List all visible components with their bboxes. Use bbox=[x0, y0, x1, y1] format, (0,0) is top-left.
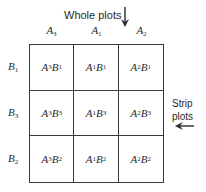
column-header-a3: A3 bbox=[29, 24, 74, 38]
cell-a2b3: A2B3 bbox=[119, 91, 163, 137]
strip-plots-label: Strip plots bbox=[172, 97, 193, 123]
row-header-b1: B1 bbox=[8, 60, 24, 74]
cell-a2b1: A2B1 bbox=[119, 45, 163, 91]
strip-label-line1: Strip bbox=[172, 97, 193, 110]
cell-a3b1: A3B1 bbox=[30, 45, 74, 91]
plot-grid: A3B1 A1B1 A2B1 A3B3 A1B3 A2B3 A3B2 A1B2 … bbox=[29, 44, 164, 183]
cell-a2b2: A2B2 bbox=[119, 136, 163, 182]
row-header-b2: B2 bbox=[8, 152, 24, 166]
cell-a3b3: A3B3 bbox=[30, 91, 74, 137]
row-header-b3: B3 bbox=[8, 106, 24, 120]
cell-a1b3: A1B3 bbox=[74, 91, 118, 137]
left-arrow-icon bbox=[175, 121, 195, 131]
column-header-a1: A1 bbox=[74, 24, 119, 38]
cell-a1b2: A1B2 bbox=[74, 136, 118, 182]
cell-a3b2: A3B2 bbox=[30, 136, 74, 182]
column-header-a2: A2 bbox=[119, 24, 164, 38]
cell-a1b1: A1B1 bbox=[74, 45, 118, 91]
whole-plots-label: Whole plots bbox=[64, 9, 121, 21]
